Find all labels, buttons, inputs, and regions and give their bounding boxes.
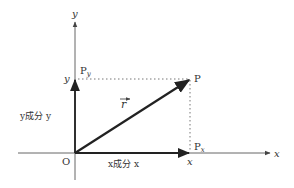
px-label: Px (194, 141, 205, 154)
vector-component-diagram: y x O P Py Px y x r y成分 y x成分 x (0, 0, 294, 188)
point-p-label: P (194, 73, 201, 84)
x-tick-label: x (187, 156, 193, 167)
x-component-label: x成分 x (108, 158, 139, 169)
vector-r-label: r (121, 98, 127, 111)
diagram-svg: y x O P Py Px y x r y成分 y x成分 x (0, 0, 294, 188)
y-tick-label: y (63, 73, 70, 84)
py-label: Py (80, 65, 92, 78)
x-axis-label: x (274, 148, 280, 159)
origin-label: O (62, 156, 70, 167)
position-vector-r (75, 80, 189, 153)
y-axis-label: y (71, 8, 78, 19)
y-component-label: y成分 y (19, 110, 52, 121)
